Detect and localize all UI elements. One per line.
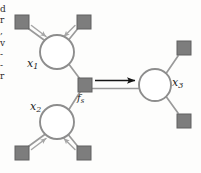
edge-x3-leaf-right-top <box>165 56 178 75</box>
page-margin-text-fragment: d r , v - - r <box>0 4 11 82</box>
factor-node-leaf-bottom-left <box>15 146 29 160</box>
factor-graph-figure: d r , v - - r x1 x2 x3 fs <box>0 0 201 173</box>
edge-x3-leaf-right-bottom <box>165 95 178 113</box>
variable-node-x1 <box>40 35 74 69</box>
variable-node-x3 <box>139 69 171 101</box>
edge-x1-fs <box>68 63 80 79</box>
factor-node-leaf-right-top <box>177 41 191 55</box>
factor-node-fs-label: fs <box>77 92 84 105</box>
message-arrow-leaf-top-left-to-x1 <box>32 26 47 37</box>
message-arrow-leaf-bottom-left-to-x2 <box>32 139 47 150</box>
variable-node-x1-label: x1 <box>27 57 38 71</box>
factor-graph-canvas <box>0 0 201 173</box>
factor-node-leaf-right-bottom <box>177 114 191 128</box>
factor-node-leaf-top-left <box>15 15 29 29</box>
factor-node-leaf-bottom-right <box>77 146 91 160</box>
variable-node-x3-label: x3 <box>172 76 183 90</box>
factor-node-leaf-top-right <box>77 15 91 29</box>
variable-node-x2-label: x2 <box>30 100 41 114</box>
variable-node-x2 <box>40 105 74 139</box>
factor-node-fs <box>78 78 92 92</box>
variable-nodes <box>40 35 171 139</box>
